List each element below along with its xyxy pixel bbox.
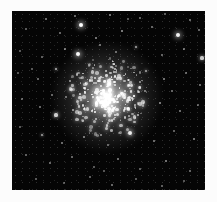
star (79, 23, 84, 28)
sky-plate (12, 11, 205, 190)
star (117, 158, 119, 160)
star (103, 170, 105, 172)
star (135, 46, 138, 49)
star (164, 13, 166, 15)
star (185, 72, 187, 74)
star (76, 52, 81, 57)
star (41, 134, 44, 137)
star (163, 78, 165, 80)
star (200, 56, 203, 59)
star (165, 160, 167, 162)
star (21, 98, 23, 100)
star (63, 182, 65, 184)
star (61, 142, 63, 144)
star (179, 110, 181, 112)
star (197, 104, 199, 106)
star (69, 80, 71, 82)
star (59, 32, 61, 34)
star (55, 68, 58, 71)
star (49, 162, 51, 164)
figure-root (0, 0, 217, 202)
star (39, 106, 41, 108)
star (37, 78, 39, 80)
star (74, 15, 76, 17)
star (45, 18, 47, 20)
star (35, 178, 37, 180)
star (51, 94, 53, 96)
star (31, 68, 33, 70)
star (111, 184, 113, 186)
star (127, 18, 129, 20)
star (107, 144, 109, 146)
star (41, 56, 43, 58)
halo-starfield (12, 11, 205, 190)
star (121, 30, 123, 32)
star (189, 19, 191, 21)
star (153, 140, 155, 142)
star (183, 48, 185, 50)
star (95, 37, 97, 39)
star (83, 136, 85, 138)
star (25, 154, 27, 156)
star (93, 166, 95, 168)
star (151, 26, 153, 28)
star (161, 185, 163, 187)
star (71, 156, 73, 158)
star (161, 54, 163, 56)
star (109, 14, 111, 16)
star (115, 51, 117, 53)
star (128, 131, 132, 135)
star (64, 48, 66, 50)
star (135, 178, 137, 180)
star (54, 113, 57, 116)
star (19, 50, 21, 52)
star (99, 44, 101, 46)
star (171, 90, 173, 92)
star (139, 17, 141, 19)
star (198, 29, 200, 31)
star (199, 84, 201, 86)
star (189, 170, 191, 172)
star (176, 33, 180, 37)
star (89, 176, 91, 178)
star (139, 168, 141, 170)
star (17, 72, 19, 74)
star (193, 138, 195, 140)
star (25, 28, 27, 30)
star (19, 126, 21, 128)
star (145, 70, 148, 73)
star (183, 180, 185, 182)
star (173, 130, 175, 132)
star (159, 102, 161, 104)
